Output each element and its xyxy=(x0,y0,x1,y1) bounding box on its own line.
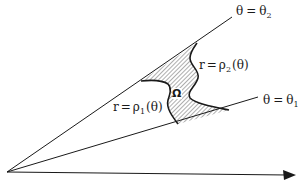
polar-region-diagram: θ=θ2 θ=θ1 r=ρ2(θ) r=ρ1(θ) Ω xyxy=(0,0,300,187)
label-rho-1: r=ρ1(θ) xyxy=(113,100,163,116)
label-theta-2: θ=θ2 xyxy=(236,4,272,20)
label-omega: Ω xyxy=(172,87,182,100)
polar-axis xyxy=(7,172,288,175)
label-rho-2: r=ρ2(θ) xyxy=(199,58,249,74)
ray-theta-2 xyxy=(7,17,232,172)
label-theta-1: θ=θ1 xyxy=(263,93,299,109)
diagram-svg: θ=θ2 θ=θ1 r=ρ2(θ) r=ρ1(θ) Ω xyxy=(0,0,300,187)
axis-arrowhead-icon xyxy=(283,170,296,180)
